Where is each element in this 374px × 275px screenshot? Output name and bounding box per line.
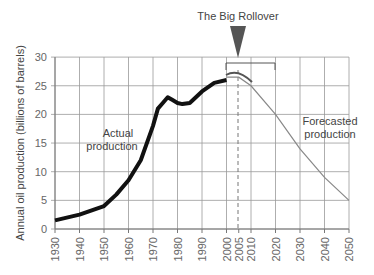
svg-text:1980: 1980 [172, 237, 184, 261]
svg-text:0: 0 [41, 223, 47, 235]
svg-text:1960: 1960 [123, 237, 135, 261]
svg-text:5: 5 [41, 194, 47, 206]
svg-text:2010: 2010 [245, 237, 257, 261]
rollover-arrow-icon [230, 26, 246, 58]
actual-label-2: production [86, 140, 137, 152]
svg-text:1930: 1930 [49, 237, 61, 261]
title: The Big Rollover [197, 10, 279, 22]
oil-production-chart: 051015202530 193019401950196019701980199… [0, 0, 374, 275]
rollover-bracket [226, 63, 275, 70]
forecast-label-2: production [304, 128, 355, 140]
actual-label: Actual [103, 127, 134, 139]
svg-text:1940: 1940 [74, 237, 86, 261]
svg-text:1950: 1950 [98, 237, 110, 261]
svg-text:15: 15 [35, 137, 47, 149]
svg-text:1990: 1990 [196, 237, 208, 261]
svg-text:10: 10 [35, 166, 47, 178]
svg-text:2020: 2020 [270, 237, 282, 261]
y-axis-label: Annual oil production (billions of barre… [14, 45, 26, 241]
svg-text:1970: 1970 [147, 237, 159, 261]
svg-text:2030: 2030 [294, 237, 306, 261]
svg-text:20: 20 [35, 108, 47, 120]
forecast-label: Forecasted [302, 115, 357, 127]
svg-text:2050: 2050 [343, 237, 355, 261]
svg-text:2000: 2000 [221, 237, 233, 261]
svg-text:30: 30 [35, 51, 47, 63]
svg-text:2005: 2005 [233, 237, 245, 261]
svg-text:2040: 2040 [319, 237, 331, 261]
svg-text:25: 25 [35, 80, 47, 92]
actual-line [55, 80, 227, 220]
